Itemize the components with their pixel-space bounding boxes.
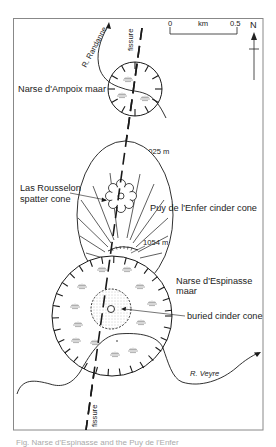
label-1054m: 1054 m: [143, 238, 168, 247]
river-randanne: R. Randanne: [80, 22, 166, 118]
north-label: N: [250, 20, 257, 30]
label-maar: maar: [176, 286, 197, 296]
label-fissure-top: fissure: [126, 29, 135, 51]
scale-end: 0.5: [230, 19, 241, 28]
label-spatter-cone: spatter cone: [20, 194, 71, 204]
label-fissure-bottom: fissure: [90, 405, 99, 427]
label-r-randanne: R. Randanne: [80, 25, 109, 69]
label-puy-de-lenfer: Puy de l'Enfer cinder cone: [150, 203, 257, 213]
espinasse-maar: Narse d'Espinasse maar buried cinder con…: [52, 256, 263, 376]
north-arrow-icon: N: [249, 20, 259, 80]
scale-unit: km: [198, 19, 208, 28]
label-buried-cinder-cone: buried cinder cone: [187, 311, 263, 321]
label-narse-despinasse: Narse d'Espinasse: [176, 276, 252, 286]
label-ampoix-maar: Narse d'Ampoix maar: [18, 84, 106, 94]
scale-bar: 0 km 0.5: [168, 19, 241, 34]
scale-start: 0: [168, 19, 172, 28]
figure-caption: Fig. Narse d'Espinasse and the Puy de l'…: [16, 438, 179, 447]
label-las-rousselon: Las Rousselon: [20, 183, 81, 193]
label-r-veyre: R. Veyre: [190, 369, 219, 378]
ampoix-maar: Narse d'Ampoix maar: [18, 62, 162, 116]
